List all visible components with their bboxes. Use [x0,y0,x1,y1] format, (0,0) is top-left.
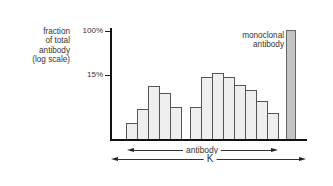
y-axis-label-line: (log scale) [22,55,70,64]
y-axis-label-line: of total [22,36,70,45]
y-axis-label: fraction of total antibody (log scale) [22,27,70,65]
tick-label-15: 15% [73,70,103,79]
monoclonal-label: monoclonal antibody [236,31,284,50]
arrow-right-icon [271,148,278,152]
tick-label-100: 100% [73,26,103,35]
arrow-right-icon [299,157,306,161]
y-axis-label-line: antibody [22,46,70,55]
histogram-bar [170,107,182,140]
y-axis-label-line: fraction [22,27,70,36]
monoclonal-label-line: monoclonal [236,31,284,40]
y-axis [110,28,112,140]
x-axis [110,139,307,141]
monoclonal-label-line: antibody [236,40,284,49]
k-arrow-label: K [204,154,217,164]
histogram-bar [267,113,279,140]
monoclonal-bar [286,30,296,140]
